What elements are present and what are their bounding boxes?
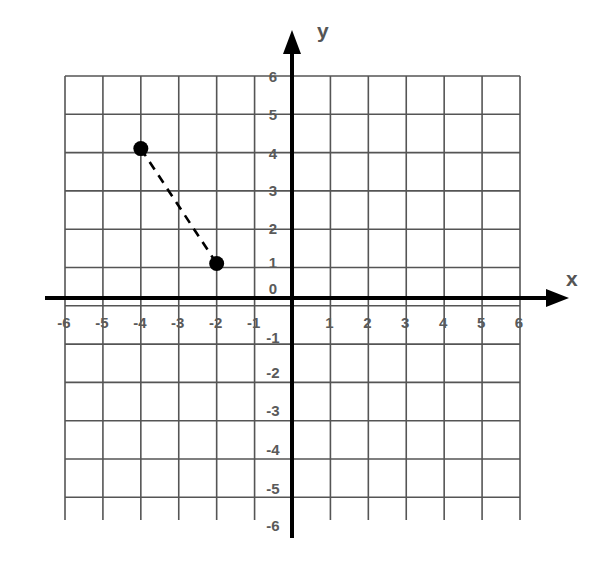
y-tick-label: -6 [266, 517, 279, 534]
data-point [209, 256, 224, 271]
x-tick-label: -6 [57, 314, 70, 331]
y-tick-label: 0 [269, 280, 277, 297]
coordinate-plane: x y -6-5-4-3-2-11234566543210-1-2-3-4-5-… [0, 0, 611, 561]
x-tick-label: 4 [439, 314, 448, 331]
y-tick-label: 5 [269, 106, 277, 123]
x-axis-arrow-icon [546, 289, 569, 307]
y-tick-label: 1 [269, 254, 277, 271]
y-tick-label: 6 [269, 68, 277, 85]
x-tick-label: 2 [363, 314, 371, 331]
y-tick-label: -3 [266, 402, 279, 419]
x-tick-label: -5 [95, 314, 108, 331]
x-tick-label: 1 [325, 314, 333, 331]
x-axis-label: x [566, 267, 578, 290]
y-axis-label: y [317, 19, 329, 42]
y-tick-label: 4 [269, 145, 278, 162]
x-tick-label: 5 [477, 314, 485, 331]
x-tick-label: 3 [401, 314, 409, 331]
axes: x y [45, 19, 578, 538]
data-point [133, 141, 148, 156]
x-tick-label: -2 [209, 314, 222, 331]
y-tick-label: 2 [269, 220, 277, 237]
x-tick-label: 6 [515, 314, 523, 331]
y-tick-label: -5 [266, 480, 279, 497]
y-tick-label: -1 [266, 329, 279, 346]
chart-svg: x y -6-5-4-3-2-11234566543210-1-2-3-4-5-… [0, 0, 611, 561]
x-tick-label: -4 [133, 314, 147, 331]
y-tick-label: 3 [269, 182, 277, 199]
y-tick-label: -2 [266, 364, 279, 381]
x-tick-label: -3 [171, 314, 184, 331]
x-tick-label: -1 [247, 314, 260, 331]
y-axis-arrow-icon [283, 30, 301, 54]
y-tick-label: -4 [266, 441, 280, 458]
